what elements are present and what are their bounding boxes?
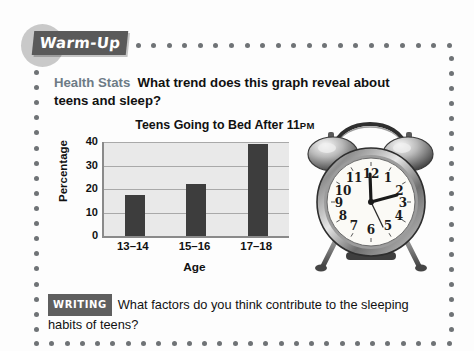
border-dot bbox=[416, 341, 421, 346]
svg-text:3: 3 bbox=[399, 196, 407, 210]
worksheet-page: Warm-Up Health Stats What trend does thi… bbox=[0, 0, 474, 351]
border-dot bbox=[385, 341, 390, 346]
border-dot bbox=[34, 221, 39, 226]
border-dot bbox=[449, 56, 454, 61]
border-dot bbox=[449, 267, 454, 272]
alarm-clock-icon: 12 1 2 3 4 5 6 7 8 9 10 11 bbox=[300, 110, 442, 272]
chart-y-tick-label: 40 bbox=[58, 135, 98, 147]
border-dot bbox=[213, 43, 218, 48]
border-dot bbox=[229, 43, 234, 48]
border-dot bbox=[276, 43, 281, 48]
border-dot bbox=[431, 43, 436, 48]
border-dot bbox=[34, 176, 39, 181]
border-dot bbox=[95, 341, 100, 346]
border-dot bbox=[401, 341, 406, 346]
chart-y-tick-label: 10 bbox=[58, 206, 98, 218]
border-dot bbox=[34, 191, 39, 196]
border-dot bbox=[34, 312, 39, 317]
border-dot bbox=[198, 43, 203, 48]
border-dot bbox=[34, 266, 39, 271]
border-dot bbox=[309, 341, 314, 346]
border-dot bbox=[187, 341, 192, 346]
border-dot bbox=[449, 131, 454, 136]
border-dot bbox=[449, 282, 454, 287]
border-dot bbox=[34, 282, 39, 287]
border-dot bbox=[355, 341, 360, 346]
border-dot bbox=[340, 341, 345, 346]
border-dot bbox=[34, 85, 39, 90]
border-dot bbox=[400, 43, 405, 48]
svg-text:4: 4 bbox=[395, 209, 403, 223]
border-dot bbox=[449, 86, 454, 91]
border-dot bbox=[291, 43, 296, 48]
border-dot bbox=[353, 43, 358, 48]
warmup-title: Warm-Up bbox=[32, 31, 129, 55]
border-dot bbox=[449, 116, 454, 121]
border-dot bbox=[34, 161, 39, 166]
border-dot bbox=[49, 341, 54, 346]
border-dots-left bbox=[34, 70, 39, 332]
border-dot bbox=[34, 327, 39, 332]
border-dot bbox=[449, 327, 454, 332]
border-dot bbox=[126, 341, 131, 346]
border-dot bbox=[172, 341, 177, 346]
chart-x-tick-label: 17–18 bbox=[230, 240, 282, 252]
chart-x-tick-label: 13–14 bbox=[107, 240, 159, 252]
svg-text:5: 5 bbox=[384, 219, 392, 233]
border-dot bbox=[324, 341, 329, 346]
border-dot bbox=[136, 43, 141, 48]
border-dot bbox=[156, 341, 161, 346]
border-dot bbox=[449, 237, 454, 242]
chart-x-axis-label: Age bbox=[102, 260, 287, 274]
svg-text:11: 11 bbox=[346, 171, 363, 185]
border-dot bbox=[449, 161, 454, 166]
border-dot bbox=[369, 43, 374, 48]
chart-bar bbox=[186, 184, 206, 236]
border-dot bbox=[80, 341, 85, 346]
border-dot bbox=[34, 297, 39, 302]
border-dot bbox=[449, 146, 454, 151]
border-dot bbox=[110, 341, 115, 346]
bar-chart: Teens Going to Bed After 11PM Percentage… bbox=[58, 118, 333, 268]
chart-bar bbox=[248, 144, 268, 236]
chart-x-axis-ticks: 13–1415–1617–18 bbox=[102, 240, 287, 252]
border-dot bbox=[384, 43, 389, 48]
border-dot bbox=[449, 252, 454, 257]
border-dot bbox=[34, 236, 39, 241]
chart-y-axis-ticks: 403020100 bbox=[58, 142, 98, 236]
border-dot bbox=[338, 43, 343, 48]
border-dot bbox=[279, 341, 284, 346]
writing-badge: WRITING bbox=[48, 294, 112, 316]
border-dot bbox=[449, 312, 454, 317]
border-dot bbox=[34, 115, 39, 120]
border-dot bbox=[294, 341, 299, 346]
border-dot bbox=[370, 341, 375, 346]
chart-plot-area bbox=[102, 142, 289, 238]
svg-text:9: 9 bbox=[335, 196, 343, 210]
svg-text:10: 10 bbox=[335, 184, 352, 198]
border-dot bbox=[34, 146, 39, 151]
border-dot bbox=[248, 341, 253, 346]
border-dot bbox=[449, 71, 454, 76]
border-dot bbox=[322, 43, 327, 48]
border-dot bbox=[65, 341, 70, 346]
svg-text:7: 7 bbox=[350, 219, 358, 233]
chart-bar bbox=[125, 195, 145, 236]
border-dot bbox=[34, 341, 39, 346]
chart-title-main: Teens Going to Bed After 11 bbox=[135, 118, 300, 132]
health-stats-prompt: Health Stats What trend does this graph … bbox=[54, 74, 399, 110]
border-dot bbox=[233, 341, 238, 346]
border-dot bbox=[449, 206, 454, 211]
border-dots-bottom bbox=[34, 341, 452, 346]
svg-text:6: 6 bbox=[367, 223, 375, 237]
border-dot bbox=[245, 43, 250, 48]
border-dot bbox=[34, 100, 39, 105]
border-dot bbox=[182, 43, 187, 48]
border-dot bbox=[449, 222, 454, 227]
border-dot bbox=[34, 251, 39, 256]
chart-x-tick-label: 15–16 bbox=[168, 240, 220, 252]
chart-y-tick-label: 30 bbox=[58, 159, 98, 171]
border-dot bbox=[447, 341, 452, 346]
chart-y-tick-label: 20 bbox=[58, 182, 98, 194]
border-dot bbox=[431, 341, 436, 346]
